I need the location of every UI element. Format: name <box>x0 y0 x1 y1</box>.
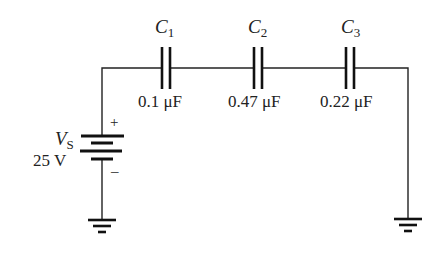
c1-value: 0.1 μF <box>138 92 182 111</box>
c3-label: C3 <box>341 16 360 40</box>
battery-vs: + – VS 25 V <box>33 114 124 179</box>
source-label: VS <box>55 128 74 152</box>
capacitor-c2: C2 0.47 μF <box>228 16 281 111</box>
c3-value: 0.22 μF <box>320 92 373 111</box>
ground-right-icon <box>394 219 422 231</box>
wires <box>102 68 408 220</box>
c2-value: 0.47 μF <box>228 92 281 111</box>
circuit-diagram: C1 0.1 μF C2 0.47 μF C3 0.22 μF + – VS 2… <box>0 0 445 256</box>
source-value: 25 V <box>33 151 67 170</box>
wire-right <box>354 68 408 219</box>
c1-label: C1 <box>155 16 174 40</box>
c2-label: C2 <box>248 16 267 40</box>
capacitor-c1: C1 0.1 μF <box>138 16 182 111</box>
battery-plus-sign: + <box>110 114 118 130</box>
ground-left-icon <box>88 220 116 232</box>
capacitor-c3: C3 0.22 μF <box>320 16 373 111</box>
battery-minus-sign: – <box>110 163 119 179</box>
